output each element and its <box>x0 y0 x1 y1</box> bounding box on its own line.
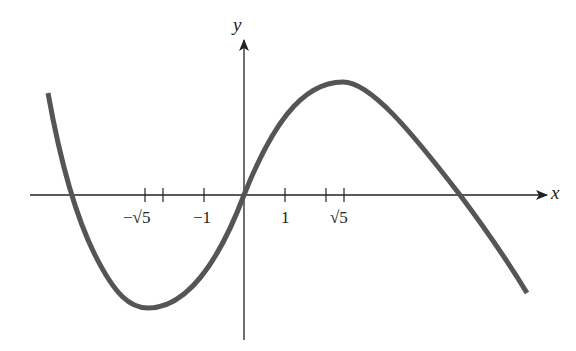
tick-label-sqrt5: √5 <box>330 208 348 228</box>
y-axis-label: y <box>233 14 241 36</box>
x-axis-label: x <box>551 182 559 204</box>
tick-label-neg-sqrt5: −√5 <box>123 208 150 228</box>
tick-label-neg-one: −1 <box>193 208 211 228</box>
graph-canvas <box>0 0 576 351</box>
graph-figure: y x −√5 −1 1 √5 <box>0 0 576 351</box>
tick-label-one: 1 <box>281 208 290 228</box>
